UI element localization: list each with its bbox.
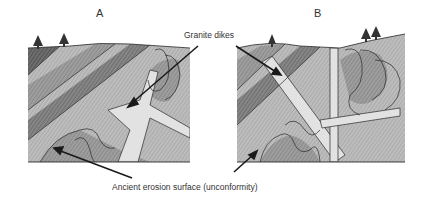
panel-b-block bbox=[237, 26, 407, 164]
tree-icon bbox=[361, 28, 371, 42]
panel-a-label: A bbox=[96, 7, 103, 19]
geology-diagram: A B Granite dikes Ancient erosion surfac… bbox=[0, 0, 428, 199]
panel-b-label: B bbox=[314, 7, 321, 19]
tree-icon bbox=[59, 33, 69, 47]
granite-dikes-label: Granite dikes bbox=[184, 30, 234, 40]
tree-icon bbox=[33, 35, 43, 49]
tree-icon bbox=[371, 26, 381, 40]
panel-a-block bbox=[28, 33, 193, 165]
erosion-surface-label: Ancient erosion surface (unconformity) bbox=[112, 182, 258, 192]
